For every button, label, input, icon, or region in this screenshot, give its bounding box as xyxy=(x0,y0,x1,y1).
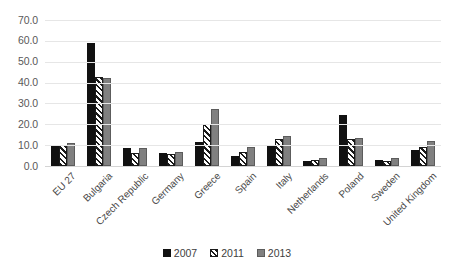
legend-swatch-icon xyxy=(210,249,218,257)
bar-2007 xyxy=(123,148,131,166)
bar-group xyxy=(225,20,261,166)
bar-2013 xyxy=(67,143,75,166)
legend-label: 2007 xyxy=(174,248,197,259)
bar-group xyxy=(369,20,405,166)
bar-group xyxy=(405,20,441,166)
bar-group xyxy=(117,20,153,166)
bar-groups xyxy=(45,20,441,166)
bar-2013 xyxy=(391,158,399,166)
bar-2011 xyxy=(131,153,139,166)
legend-label: 2013 xyxy=(268,248,291,259)
bar-2013 xyxy=(175,152,183,166)
bar-2007 xyxy=(231,156,239,166)
y-axis-tick-label: 60.0 xyxy=(18,35,38,46)
bar-2011 xyxy=(59,145,67,166)
x-axis-category-labels: EU 27BulgariaCzech RepublicGermanyGreece… xyxy=(45,167,441,237)
legend-item-2011[interactable]: 2011 xyxy=(210,248,244,259)
x-axis-category-label: Germany xyxy=(150,171,186,207)
gridline xyxy=(45,41,441,42)
y-axis-tick-label: 20.0 xyxy=(18,119,38,130)
bar-group xyxy=(189,20,225,166)
bar-group xyxy=(261,20,297,166)
y-axis-tick-label: 70.0 xyxy=(18,15,38,26)
bar-2011 xyxy=(275,139,283,166)
x-axis-category-label: EU 27 xyxy=(52,171,79,198)
bar-group xyxy=(153,20,189,166)
x-axis-category: Netherlands xyxy=(297,167,333,237)
bar-group xyxy=(333,20,369,166)
x-axis-category: Greece xyxy=(189,167,225,237)
bar-2013 xyxy=(103,78,111,166)
gridline xyxy=(45,145,441,146)
legend-item-2013[interactable]: 2013 xyxy=(257,248,291,259)
bar-2007 xyxy=(339,115,347,166)
x-axis-category: Poland xyxy=(333,167,369,237)
bar-2013 xyxy=(319,158,327,166)
y-axis: 70.060.050.040.030.020.010.00.0 xyxy=(0,0,42,268)
legend-swatch-icon xyxy=(163,249,171,257)
legend-swatch-icon xyxy=(257,249,265,257)
bar-2007 xyxy=(267,145,275,166)
x-axis-category: Germany xyxy=(153,167,189,237)
y-axis-tick-label: 30.0 xyxy=(18,98,38,109)
bar-2011 xyxy=(347,139,355,166)
x-axis-category: United Kingdom xyxy=(405,167,441,237)
gridline xyxy=(45,83,441,84)
bar-2011 xyxy=(419,147,427,166)
x-axis-category-label: Bulgaria xyxy=(81,171,114,204)
x-axis-category: Spain xyxy=(225,167,261,237)
gridline xyxy=(45,20,441,21)
x-axis-category-label: Greece xyxy=(192,171,222,201)
bar-2011 xyxy=(239,152,247,166)
bar-group xyxy=(45,20,81,166)
bar-2011 xyxy=(95,77,103,166)
legend-label: 2011 xyxy=(221,248,244,259)
x-axis-category-label: Spain xyxy=(233,171,258,196)
bar-2007 xyxy=(411,150,419,166)
gridline xyxy=(45,62,441,63)
gridline xyxy=(45,103,441,104)
bar-group xyxy=(81,20,117,166)
bar-2007 xyxy=(159,153,167,166)
bar-2007 xyxy=(51,145,59,166)
x-axis-category-label: Italy xyxy=(274,171,294,191)
plot-area xyxy=(45,20,441,166)
bar-2013 xyxy=(211,109,219,166)
y-axis-tick-label: 10.0 xyxy=(18,140,38,151)
x-axis-category-label: Poland xyxy=(337,171,366,200)
bar-group xyxy=(297,20,333,166)
y-axis-tick-label: 40.0 xyxy=(18,77,38,88)
bar-chart: 70.060.050.040.030.020.010.00.0 EU 27Bul… xyxy=(0,0,454,268)
x-axis-category: Czech Republic xyxy=(117,167,153,237)
bar-2013 xyxy=(139,148,147,166)
bar-2013 xyxy=(247,147,255,166)
x-axis-category-label: Sweden xyxy=(370,171,402,203)
legend-item-2007[interactable]: 2007 xyxy=(163,248,197,259)
y-axis-tick-label: 50.0 xyxy=(18,56,38,67)
y-axis-tick-label: 0.0 xyxy=(24,161,38,172)
bar-2013 xyxy=(283,136,291,166)
gridline xyxy=(45,124,441,125)
bar-2011 xyxy=(167,154,175,167)
x-axis-category: EU 27 xyxy=(45,167,81,237)
chart-legend: 200720112013 xyxy=(0,248,454,259)
bar-2013 xyxy=(355,138,363,166)
